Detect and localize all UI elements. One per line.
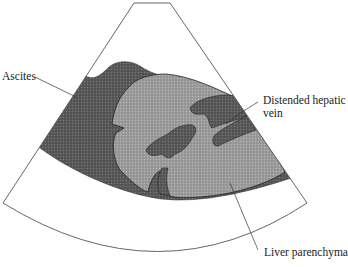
- ascites-label: Ascites: [2, 70, 36, 82]
- liver-parenchyma-label: Liver parenchyma: [264, 246, 348, 259]
- ascites-leader-line: [35, 77, 76, 97]
- hepatic-vein-label-line1: Distended hepatic: [263, 94, 346, 107]
- liver-region: [112, 74, 285, 198]
- hepatic-vein-label-line2: vein: [263, 107, 283, 119]
- liver-leader-line: [230, 183, 258, 250]
- ultrasound-diagram: Ascites Distended hepatic vein Liver par…: [0, 0, 348, 267]
